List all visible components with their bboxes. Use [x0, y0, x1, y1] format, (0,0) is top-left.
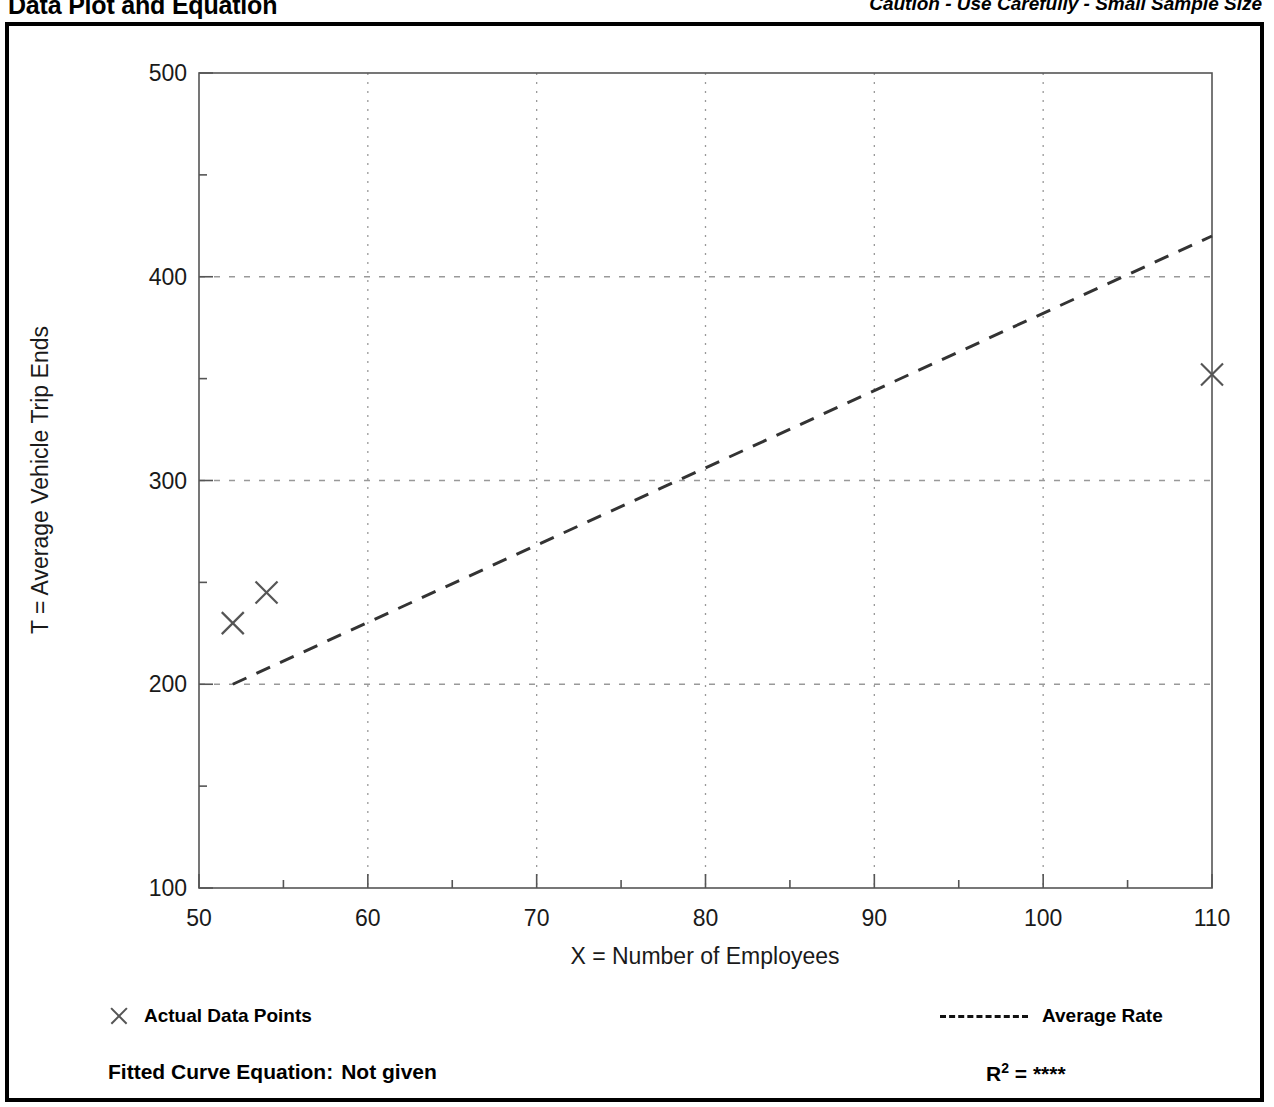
caution-note: Caution - Use Carefully - Small Sample S… — [869, 0, 1262, 15]
r-squared-value: R2 = **** — [986, 1060, 1066, 1086]
legend-item-average-rate: Average Rate — [940, 1005, 1163, 1027]
x-tick-label: 90 — [862, 905, 888, 932]
x-tick-label: 70 — [524, 905, 550, 932]
page-title: Data Plot and Equation — [8, 0, 277, 20]
legend-item-actual-data-points: Actual Data Points — [108, 1005, 312, 1027]
fitted-curve-equation-value: Not given — [341, 1060, 437, 1083]
dashed-line-icon — [940, 1015, 1028, 1018]
x-tick-label: 50 — [186, 905, 212, 932]
r-squared-equals: = — [1015, 1062, 1027, 1085]
legend-label-actual-data-points: Actual Data Points — [144, 1005, 312, 1027]
fitted-curve-equation: Fitted Curve Equation:Not given — [108, 1060, 437, 1084]
x-tick-label: 110 — [1194, 905, 1231, 932]
r-squared-exponent: 2 — [1001, 1060, 1009, 1076]
r-squared-asterisks: **** — [1033, 1062, 1066, 1085]
y-tick-label: 200 — [127, 671, 187, 698]
r-squared-label: R — [986, 1062, 1001, 1085]
y-tick-label: 400 — [127, 263, 187, 290]
y-tick-label: 500 — [127, 60, 187, 87]
x-axis-title: X = Number of Employees — [570, 943, 839, 970]
fitted-curve-equation-label: Fitted Curve Equation: — [108, 1060, 333, 1083]
x-tick-label: 60 — [355, 905, 381, 932]
x-mark-icon — [108, 1005, 130, 1027]
y-tick-label: 100 — [127, 875, 187, 902]
y-tick-label: 300 — [127, 467, 187, 494]
legend-label-average-rate: Average Rate — [1042, 1005, 1163, 1027]
x-tick-label: 80 — [693, 905, 719, 932]
x-tick-label: 100 — [1024, 905, 1062, 932]
chart-panel — [5, 22, 1264, 1102]
y-axis-title: T = Average Vehicle Trip Ends — [27, 326, 54, 634]
page-header: Data Plot and Equation Caution - Use Car… — [0, 0, 1274, 22]
